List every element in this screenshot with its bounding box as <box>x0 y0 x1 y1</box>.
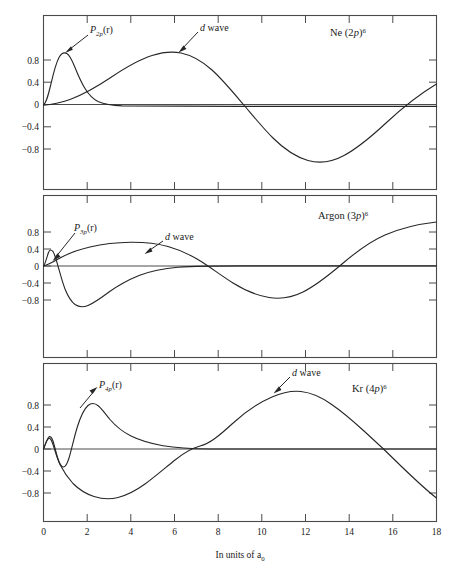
panel-argon-ytick-1: 0.4 <box>27 245 39 255</box>
panel-kr-annotation-dwave: d wave <box>274 367 322 394</box>
panel-argon-label-p3p: P3p(r) <box>73 222 97 235</box>
xtick-5: 10 <box>257 527 267 537</box>
panel-argon: 0.8 0.4 0 −0.4 −0.8 P3p(r) d wave A <box>22 196 437 358</box>
panel-ne-ytick-3: −0.4 <box>22 122 39 132</box>
panel-ne-annotation-dwave: d wave <box>179 22 230 53</box>
panel-kr-ytick-4: −0.8 <box>22 489 39 499</box>
panel-kr-title: Kr (4p)6 <box>352 383 387 396</box>
panel-argon-label-dwave: d wave <box>165 231 194 242</box>
figure-canvas: 0.8 0.4 0 −0.4 −0.8 P2p(r) d wave <box>0 0 457 577</box>
xtick-0: 0 <box>41 527 46 537</box>
x-axis-title: In units of a0 <box>215 550 265 562</box>
xtick-9: 18 <box>432 527 442 537</box>
xtick-4: 8 <box>216 527 221 537</box>
xtick-7: 14 <box>344 527 354 537</box>
panel-kr-curve-dwave <box>44 391 437 499</box>
xtick-8: 16 <box>388 527 398 537</box>
xtick-2: 4 <box>128 527 133 537</box>
panel-ne-ytick-2: 0 <box>34 100 39 110</box>
panel-argon-curve-p3p <box>44 250 437 307</box>
panel-argon-ytick-0: 0.8 <box>27 228 39 238</box>
xtick-3: 6 <box>172 527 177 537</box>
xtick-1: 2 <box>85 527 90 537</box>
panel-kr-label-p4p: P4p(r) <box>98 379 122 392</box>
panel-argon-annotation-dwave: d wave <box>145 231 195 254</box>
panel-ne-title: Ne (2p)6 <box>330 27 366 40</box>
panel-kr-ytick-2: 0 <box>34 445 39 455</box>
panel-ne-label-p2p: P2p(r) <box>89 24 113 37</box>
xtick-6: 12 <box>301 527 311 537</box>
panel-kr-curve-p4p <box>44 403 437 467</box>
panel-ne-label-dwave: d wave <box>200 22 229 33</box>
wavefunction-figure: 0.8 0.4 0 −0.4 −0.8 P2p(r) d wave <box>0 0 457 577</box>
panel-ne-ytick-0: 0.8 <box>27 56 39 66</box>
panel-ne-x-ticks <box>87 16 393 190</box>
panel-argon-title: Argon (3p)6 <box>318 210 369 223</box>
panel-kr-x-ticks <box>87 364 393 522</box>
panel-ne-curve-p2p <box>44 53 437 107</box>
panel-ne-ytick-4: −0.8 <box>22 145 39 155</box>
panel-ne-annotation-p2p: P2p(r) <box>65 24 113 53</box>
panel-ne-ytick-1: 0.4 <box>27 78 39 88</box>
panel-argon-ytick-2: 0 <box>34 262 39 272</box>
panel-argon-ytick-4: −0.8 <box>22 296 39 306</box>
panel-argon-ytick-3: −0.4 <box>22 279 39 289</box>
panel-argon-annotation-p3p: P3p(r) <box>53 222 97 261</box>
panel-ne: 0.8 0.4 0 −0.4 −0.8 P2p(r) d wave <box>22 16 437 190</box>
panel-argon-frame <box>44 196 437 358</box>
panel-kr-ytick-0: 0.8 <box>27 401 39 411</box>
panel-kr-annotation-p4p: P4p(r) <box>80 379 122 408</box>
panel-kr-label-dwave: d wave <box>292 367 321 378</box>
panel-kr-ytick-3: −0.4 <box>22 467 39 477</box>
panel-kr-ytick-1: 0.4 <box>27 423 39 433</box>
panel-kr: 0.8 0.4 0 −0.4 −0.8 P4p(r) d wave K <box>22 364 442 562</box>
panel-argon-curve-dwave <box>44 222 437 298</box>
panel-ne-curve-dwave <box>44 52 437 162</box>
x-axis-tick-labels: 0 2 4 6 8 10 12 14 16 18 <box>41 527 441 537</box>
